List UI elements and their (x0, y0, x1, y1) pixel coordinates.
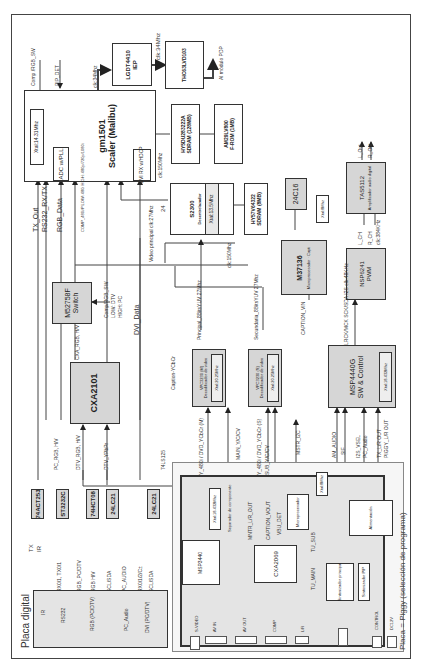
y480s-label: Y_480i / DVD_YCbCr (S) (256, 419, 262, 475)
chip-74hct08: 74HCT08 (86, 489, 99, 519)
rx01-label: RX0/1, TX0/1 (56, 562, 62, 592)
piggy-xtal-18: Xtal:18.432Mhz (209, 488, 221, 530)
l-ch-label: L_CH (357, 232, 363, 245)
clk34-label-2: clk:34Mhz (92, 65, 98, 88)
port-comp (265, 636, 287, 644)
vbu-det-label: VBU_DET (276, 512, 282, 535)
tu-sub-label: TU_SUB (310, 532, 316, 552)
chip-24lc21-a: 24LC21 (106, 489, 119, 519)
thc63lvd103-block: THC63LVD103 (165, 41, 204, 89)
placa-digital-connectors: IR RS232 RGB (PC/DTV) PC_Audio DVI (PC/D… (33, 590, 168, 648)
port-label-lr: L/R (300, 626, 305, 632)
main-y-label: MAIN_Y/C/CV (235, 428, 241, 460)
pc-rgb-label: PC_RGB, H/V (53, 438, 59, 470)
pdp-out-label: Al módulo PDP (218, 46, 224, 80)
pc-audio-label: PC_Audio (362, 435, 368, 458)
tx-out-label: TX_Out (32, 208, 39, 232)
clk150-label: clk:150Mhz (157, 153, 163, 178)
port-label-dc12v: DC12V (389, 617, 394, 630)
port-control (372, 636, 382, 648)
piggy-lr-label: PIGGY_L/R OUT (383, 420, 389, 458)
sintonizador-pip: Sintonizador PIP (358, 563, 370, 601)
rgb-pcdtv-label: RGB_PC/DTV (76, 560, 82, 592)
sdram-8mb-block: HY57V64322SDRAM (8MB) (244, 183, 268, 235)
sif-label: SIF (340, 447, 346, 455)
port-av-in (205, 636, 227, 644)
sdram-128mb-block: HY5DU283222ASDRAM (128MB) (171, 104, 200, 164)
scaler-xtal: Xtal:14.31Mhz (30, 109, 44, 165)
vpc3230-s-block: VPC3230 (S)Decodificador de video Xtal:2… (248, 349, 282, 407)
msp3440-block: MSP3440 (182, 540, 220, 585)
placa-digital-title: Placa digital (20, 594, 31, 648)
eeprom-24c16: 24C16 (285, 178, 307, 210)
mntr-label: MNTR_L/R_OUT (247, 502, 253, 540)
tas5112-block: TAS5112Amplificador audio digital (346, 162, 386, 214)
clk384-label: clk:384KHz (375, 220, 381, 245)
cxa2069-block: CXA2069 (254, 545, 297, 583)
ls125-label: 74LS125 (160, 450, 166, 470)
tx-lr-out-label: TX_L/R OUT (376, 429, 382, 458)
piggy-xtal-8: Xtal:8Mhz (316, 472, 328, 496)
pip-det-label: PIP_DET (54, 65, 60, 86)
port-label-av-in: AV IN (212, 622, 217, 632)
nsp6241-block: NSP6241PWM (346, 248, 386, 300)
rgb-data-label: RGB_Data (56, 198, 63, 232)
vpc3230-m-block: VPC3230 (M)Decodificador de video Xtal:2… (192, 349, 226, 407)
lgdt4410-block: LGDT4410IEP (112, 43, 152, 86)
ir-label: IR (36, 546, 42, 552)
tu-main-label: TU_MAIN (310, 568, 316, 590)
flash-rom-block: AM29LV800F-ROM (1MB) (214, 104, 243, 164)
chip-24lc21-b: 24LC21 (147, 489, 160, 519)
caption-vin-label: CAPTION_VIN (300, 302, 306, 335)
msp4440g-block: MSP4440GSW & Control Xtal:18.432Mhz (328, 345, 396, 408)
cxa2101-block: CXA2101 (70, 362, 120, 424)
clk150-label-2: clk:150Mhz (226, 243, 232, 268)
port-lr (295, 636, 309, 644)
port-label-av-out: AV OUT (242, 617, 247, 632)
bus-24-label: 24 (160, 205, 166, 212)
port-svideo (190, 636, 200, 650)
port-tuner (338, 628, 348, 646)
port-label-svideo: S-VIDEO (194, 616, 199, 632)
i2s-label: LRCK/MCK SCK/SDA I2S clk:48KHz (343, 263, 349, 345)
xtal-8mhz: Xtal:8Mhz (316, 195, 329, 223)
i2s-vsel-label: I2S_VSEL (355, 435, 361, 458)
chip-74act253: 74ACT253 (31, 489, 44, 519)
s2300-block: S2300Desentrelazador Xtal:13.5Mhz (170, 183, 234, 235)
rx012-label: RX0/1/2/C± (137, 566, 143, 592)
dtv-rgb-label: DTV_RGB, H/V (75, 435, 81, 470)
sub-y-label: SUB_Y/C/CV (264, 445, 270, 475)
comp-rgb-sw-label-2: Comp/RGB_SW (103, 282, 109, 318)
scaler-block: Xtal:14.31Mhz ADC w/PLL DVI RX w/HDCP gm… (24, 90, 156, 182)
sintonizador-principal: Sintonizador principal (326, 563, 354, 601)
adc-pll: ADC w/PLL (53, 147, 69, 181)
principal-label: Principal_8BitsYUV 27Mhz (196, 280, 202, 340)
port-dc12v (387, 636, 397, 648)
port-av-out (235, 636, 257, 644)
high-pc-label: HIGH: PC (117, 296, 123, 318)
y480-label: Y_480i / DVD_YCbCr (M) (198, 418, 204, 475)
placa-piggy-title: Placa = Piggy (selección de programa) (398, 512, 407, 650)
mstr-i2c-label: MSTR_I2C (295, 430, 301, 455)
sep-comp-label: Separador de componente (227, 485, 232, 532)
chip-st3232c: ST3232C (56, 489, 69, 519)
dtv-ypbpr-label: DTV_YPbPr (103, 443, 109, 470)
comp-note-label: COMP_480i/P LOW: 480i HIGH: 480p/720p/10… (80, 143, 85, 232)
video-principal-label: Video principal clk:27Mhz (148, 205, 154, 262)
low-dtv-label: LOW: DTV (110, 294, 116, 318)
r-out-label: R_Out (367, 144, 373, 158)
comp-rgb-sw-label: Comp /RGB_SW (30, 48, 36, 86)
tx-label: TX (28, 544, 34, 552)
r-ch-label: R_CH (367, 231, 373, 245)
rgb-hv-label: RGB H/V (90, 571, 96, 592)
alimentacion-block: Alimentación (349, 500, 393, 536)
dvi-data-label: DVI_Data (133, 305, 140, 335)
scl-sda-label-2: SCL/SDA (148, 571, 154, 592)
caption-vout-label: CAPTION_VOUT (265, 501, 271, 540)
pc-audio-signal-label: PC_AUDIO (121, 566, 127, 592)
scaler-title: gm1501Scaler (Malibu) (98, 104, 118, 168)
m37136-block: M37136Microprocesador · Capti (281, 240, 327, 295)
piggy-micro: Microprocesador (287, 494, 309, 530)
am-audio-label: AM_AUDIO (331, 432, 337, 458)
rs232-rxtx-label: RS232_RX/TX (41, 186, 48, 232)
